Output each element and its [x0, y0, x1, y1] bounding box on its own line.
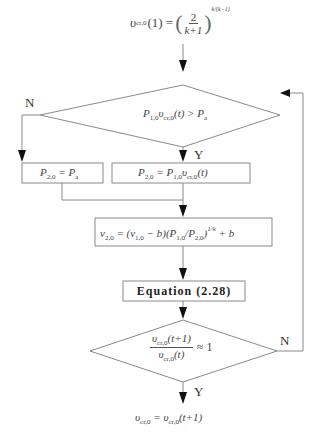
- box-no-text: P2,0 = Pa: [40, 166, 78, 181]
- d1-b-sub: cr,0: [164, 114, 174, 122]
- arrow-head-1: [179, 60, 187, 72]
- decision-2-no-label: N: [280, 333, 289, 349]
- end-b-sub: cr,0: [168, 418, 178, 426]
- start-frac-den: k+1: [182, 24, 204, 36]
- bv-d: /P: [185, 227, 195, 239]
- bv-b: = (v: [114, 227, 135, 239]
- arrow-head-3: [179, 150, 187, 162]
- arrow-head-4: [179, 205, 187, 217]
- by-d: (t): [197, 166, 207, 178]
- start-exponent: k/(k−1): [212, 6, 230, 12]
- arrow-head-7: [179, 392, 187, 404]
- start-frac-num: 2: [189, 11, 199, 24]
- end-c: (t+1): [179, 411, 202, 423]
- d2-num: υcr,0(t+1): [150, 332, 193, 348]
- bn-b-sub: a: [75, 173, 78, 181]
- bv-d-sub: 2,0: [195, 234, 204, 242]
- bv-f: + b: [216, 227, 234, 239]
- box-equation-label: Equation (2.28): [123, 284, 245, 299]
- decision-1-no-label: N: [25, 95, 34, 111]
- d2-den-sub: cr,0: [164, 355, 174, 363]
- connector-decision2-no-loop: [277, 93, 303, 351]
- bv-a-sub: 2,0: [105, 234, 114, 242]
- d1-a: P: [143, 107, 150, 119]
- bv-c-sub: 1,0: [176, 234, 185, 242]
- decision-2-fraction: υcr,0(t+1) υcr,0(t): [150, 332, 193, 363]
- d1-c-sub: a: [204, 114, 207, 122]
- d2-rhs: ≈ 1: [197, 340, 213, 355]
- end-a-sub: cr,0: [140, 418, 150, 426]
- connector-decision1-no: [22, 115, 40, 150]
- by-c-sub: cr,0: [187, 173, 197, 181]
- by-b: = P: [153, 166, 173, 178]
- decision-1-yes-label: Y: [194, 147, 203, 163]
- by-a: P: [138, 166, 145, 178]
- d1-c: (t) > P: [174, 107, 204, 119]
- d2-den: υcr,0(t): [156, 348, 186, 363]
- connector-merge: [62, 183, 183, 200]
- arrow-head-5: [179, 268, 187, 280]
- box-volume-text: v2,0 = (v1,0 − b)(P1,0/P2,0)1/k + b: [100, 225, 234, 242]
- start-lhs-arg: (1) =: [147, 15, 173, 31]
- arrow-head-2: [18, 150, 26, 162]
- decision-2-text: υcr,0(t+1) υcr,0(t) ≈ 1: [150, 332, 212, 363]
- d2-num-b: (t+1): [167, 332, 190, 344]
- decision-1-text: P1,0υcr,0(t) > Pa: [143, 107, 207, 122]
- end-formula: υcr,0 = υcr,0(t+1): [135, 411, 202, 426]
- arrow-head-6: [179, 307, 187, 319]
- d2-den-b: (t): [174, 348, 184, 360]
- bn-b: = P: [55, 166, 75, 178]
- flowchart-canvas: [0, 0, 316, 442]
- arrow-head-loop: [280, 89, 290, 97]
- start-fraction: 2 k+1: [182, 11, 204, 36]
- decision-2-yes-label: Y: [194, 384, 203, 400]
- bv-e-sup: 1/k: [207, 225, 216, 233]
- end-b: = υ: [150, 411, 168, 423]
- right-paren: ): [204, 10, 211, 36]
- bn-a: P: [40, 166, 47, 178]
- start-lhs-sub: cr,0: [136, 19, 146, 27]
- d2-num-sub: cr,0: [157, 339, 167, 347]
- bv-c: − b)(P: [144, 227, 176, 239]
- left-paren: (: [175, 10, 182, 36]
- by-b-sub: 1,0: [173, 173, 182, 181]
- bv-b-sub: 1,0: [135, 234, 144, 242]
- box-yes-text: P2,0 = P1,0υcr,0(t): [138, 166, 208, 181]
- start-formula: υcr,0 (1) = ( 2 k+1 ) k/(k−1): [130, 10, 230, 36]
